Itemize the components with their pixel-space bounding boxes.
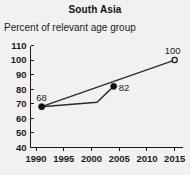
marker-mid-82 <box>111 83 117 89</box>
point-label-100: 100 <box>165 45 181 56</box>
x-axis: 199019952000200520102015 <box>25 148 185 164</box>
x-tick-label: 2005 <box>109 153 131 164</box>
plot-area: 110100908070605040 199019952000200520102… <box>0 0 190 175</box>
data-labels: 6882100 <box>36 45 180 103</box>
series-path-observed <box>42 86 114 106</box>
y-axis: 110100908070605040 <box>11 40 34 153</box>
y-tick-label: 70 <box>16 98 27 109</box>
x-tick-label: 2010 <box>136 153 157 164</box>
x-tick-label: 1995 <box>53 153 75 164</box>
point-label-68: 68 <box>36 92 47 103</box>
y-tick-label: 90 <box>16 69 27 80</box>
y-tick-label: 100 <box>11 54 27 65</box>
chart-container: South Asia Percent of relevant age group… <box>0 0 190 175</box>
y-tick-label: 50 <box>16 127 27 138</box>
x-tick-label: 2000 <box>81 153 102 164</box>
y-tick-label: 80 <box>16 84 27 95</box>
x-tick-label: 1990 <box>25 153 46 164</box>
series-path-trend-to-target <box>42 60 175 107</box>
marker-end-100 <box>172 57 177 62</box>
marker-start-68 <box>38 104 44 110</box>
point-label-82: 82 <box>119 82 130 93</box>
y-tick-label: 40 <box>16 142 27 153</box>
y-tick-label: 60 <box>16 113 27 124</box>
x-tick-label: 2015 <box>164 153 186 164</box>
y-tick-label: 110 <box>11 40 26 51</box>
data-series <box>42 60 175 107</box>
